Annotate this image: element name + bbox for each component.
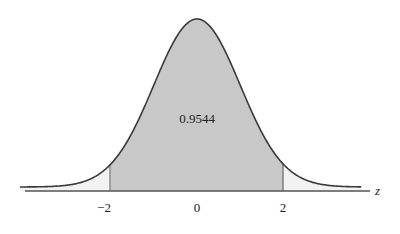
normal-curve-chart: −2 0 2 z 0.9544 bbox=[0, 0, 400, 234]
tick-label-0: 0 bbox=[194, 200, 201, 215]
shaded-center-area bbox=[111, 19, 284, 191]
tick-label-2: 2 bbox=[280, 200, 287, 215]
x-axis-label: z bbox=[374, 183, 380, 198]
tick-label-neg2: −2 bbox=[97, 200, 111, 215]
area-annotation: 0.9544 bbox=[179, 111, 215, 126]
